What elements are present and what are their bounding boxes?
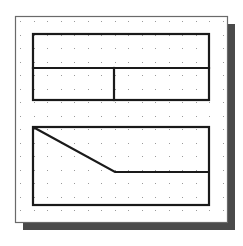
grid-dot (223, 21, 224, 22)
grid-dot (169, 116, 170, 117)
grid-dot (47, 89, 48, 90)
grid-dot (20, 143, 21, 144)
grid-dot (155, 116, 156, 117)
grid-dot (88, 75, 89, 76)
grid-dot (47, 75, 48, 76)
grid-dot (223, 129, 224, 130)
grid-dot (20, 35, 21, 36)
grid-dot (101, 35, 102, 36)
grid-dot (155, 62, 156, 63)
grid-dot (115, 156, 116, 157)
grid-dot (128, 62, 129, 63)
grid-dot (169, 62, 170, 63)
grid-dot (20, 116, 21, 117)
grid-dot (155, 89, 156, 90)
grid-dot (142, 116, 143, 117)
grid-dot (196, 75, 197, 76)
grid-dot (182, 197, 183, 198)
grid-dot (88, 89, 89, 90)
grid-dot (223, 170, 224, 171)
grid-dot (169, 197, 170, 198)
grid-dot (169, 48, 170, 49)
grid-dot (155, 102, 156, 103)
grid-panel (16, 17, 228, 223)
grid-dot (223, 197, 224, 198)
grid-dot (47, 129, 48, 130)
grid-dot (155, 143, 156, 144)
grid-dot (101, 102, 102, 103)
grid-dot (47, 21, 48, 22)
grid-dot (169, 183, 170, 184)
grid-dot (142, 143, 143, 144)
grid-dot (74, 129, 75, 130)
grid-dot (209, 116, 210, 117)
grid-dot (61, 21, 62, 22)
grid-dot (74, 102, 75, 103)
grid-dot (74, 156, 75, 157)
grid-dot (128, 143, 129, 144)
grid-dot (34, 35, 35, 36)
grid-dot (196, 170, 197, 171)
grid-dot (34, 183, 35, 184)
grid-dot (169, 143, 170, 144)
grid-dot (61, 62, 62, 63)
grid-dot (128, 183, 129, 184)
grid-dot (196, 102, 197, 103)
grid-dot (182, 35, 183, 36)
grid-dot (61, 35, 62, 36)
grid-dot (47, 62, 48, 63)
grid-dot (74, 116, 75, 117)
grid-dot (223, 210, 224, 211)
grid-dot (169, 170, 170, 171)
grid-dot (142, 156, 143, 157)
grid-dot (196, 143, 197, 144)
grid-dot (169, 21, 170, 22)
grid-dot (101, 183, 102, 184)
grid-dot (142, 62, 143, 63)
grid-dot (128, 197, 129, 198)
grid-dot (169, 102, 170, 103)
grid-dot (61, 197, 62, 198)
grid-dot (61, 156, 62, 157)
grid-dot (182, 143, 183, 144)
grid-dot (182, 129, 183, 130)
grid-dot (223, 183, 224, 184)
grid-dot (74, 170, 75, 171)
grid-dot (34, 62, 35, 63)
grid-dot (182, 210, 183, 211)
grid-dot (47, 156, 48, 157)
grid-dot (88, 129, 89, 130)
grid-dot (34, 197, 35, 198)
grid-dot (61, 210, 62, 211)
grid-dot (142, 75, 143, 76)
grid-dot (223, 75, 224, 76)
grid-dot (142, 89, 143, 90)
grid-dot (47, 183, 48, 184)
grid-dot (142, 35, 143, 36)
grid-dot (47, 170, 48, 171)
grid-dot (20, 197, 21, 198)
grid-dot (128, 48, 129, 49)
grid-dot (101, 21, 102, 22)
grid-dot (88, 35, 89, 36)
grid-dot (47, 197, 48, 198)
grid-dot (115, 116, 116, 117)
grid-dot (169, 89, 170, 90)
grid-dot (182, 156, 183, 157)
grid-dot (61, 48, 62, 49)
grid-dot (115, 35, 116, 36)
grid-dot (115, 89, 116, 90)
grid-dot (196, 89, 197, 90)
grid-dot (34, 102, 35, 103)
grid-dot (88, 48, 89, 49)
grid-dot (20, 156, 21, 157)
grid-dot (182, 62, 183, 63)
grid-dot (182, 116, 183, 117)
grid-dot (128, 210, 129, 211)
grid-dot (128, 102, 129, 103)
grid-dot (88, 102, 89, 103)
grid-dot (196, 48, 197, 49)
grid-dot (74, 75, 75, 76)
grid-dot (142, 210, 143, 211)
grid-dot (74, 35, 75, 36)
